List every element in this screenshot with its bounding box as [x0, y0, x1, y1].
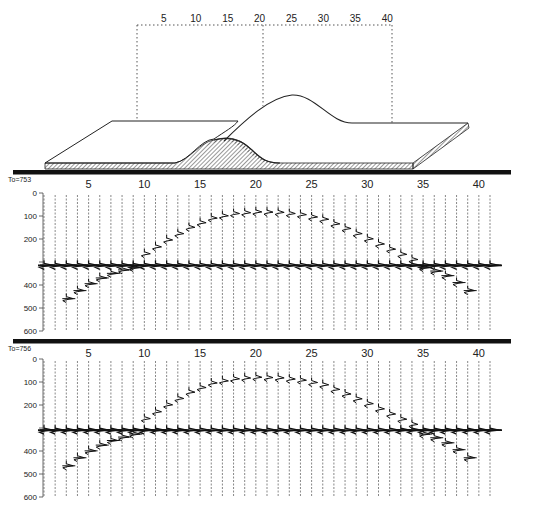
model-axis-label: 10 [190, 13, 202, 24]
y-axis: 0100200400500600 [24, 189, 43, 336]
trace-number-label: 40 [473, 178, 485, 190]
separator-bar [13, 339, 511, 344]
model-axis-label: 25 [286, 13, 298, 24]
trace-number-label: 15 [194, 178, 206, 190]
y-axis: 0100200400500600 [24, 355, 43, 502]
y-tick-label: 0 [33, 355, 38, 364]
y-tick-label: 500 [24, 304, 38, 313]
seismic-panel-2: To=7560100200400500600510152025303540 [8, 339, 511, 502]
trace-number-label: 10 [138, 347, 150, 359]
trace-number-label: 30 [361, 347, 373, 359]
seismic-panel-1: To=7530100200400500600510152025303540 [8, 170, 511, 336]
y-tick-label: 100 [24, 212, 38, 221]
y-tick-label: 600 [24, 493, 38, 502]
trace-number-label: 20 [250, 347, 262, 359]
y-tick-label: 400 [24, 281, 38, 290]
y-tick-label: 500 [24, 470, 38, 479]
model-axis-label: 5 [161, 13, 167, 24]
figure-canvas: 510152025303540 To=753010020040050060051… [0, 0, 536, 511]
y-tick-label: 200 [24, 235, 38, 244]
trace-number-label: 20 [250, 178, 262, 190]
panel-title: To=753 [8, 176, 31, 183]
trace-number-label: 30 [361, 178, 373, 190]
trace-number-label: 25 [305, 178, 317, 190]
model-diagram: 510152025303540 [45, 13, 469, 169]
trace-number-label: 15 [194, 347, 206, 359]
y-tick-label: 600 [24, 327, 38, 336]
y-tick-label: 100 [24, 378, 38, 387]
y-tick-label: 0 [33, 189, 38, 198]
model-slab-top [45, 95, 468, 163]
separator-bar [13, 170, 511, 175]
trace-number-label: 40 [473, 347, 485, 359]
trace-number-label: 10 [138, 178, 150, 190]
trace-number-label: 35 [417, 178, 429, 190]
model-axis-label: 40 [382, 13, 394, 24]
y-tick-label: 200 [24, 401, 38, 410]
model-axis-labels: 510152025303540 [161, 13, 393, 24]
y-tick-label: 400 [24, 447, 38, 456]
panel-title: To=756 [8, 345, 31, 352]
model-axis-label: 15 [222, 13, 234, 24]
model-axis-label: 30 [318, 13, 330, 24]
trace-number-label: 35 [417, 347, 429, 359]
trace-number-label: 25 [305, 347, 317, 359]
traces [38, 195, 502, 331]
model-axis-label: 20 [254, 13, 266, 24]
traces [38, 361, 502, 497]
figure: 510152025303540 To=753010020040050060051… [0, 0, 536, 511]
model-axis-label: 35 [350, 13, 362, 24]
trace-number-label: 5 [86, 347, 92, 359]
trace-number-label: 5 [86, 178, 92, 190]
